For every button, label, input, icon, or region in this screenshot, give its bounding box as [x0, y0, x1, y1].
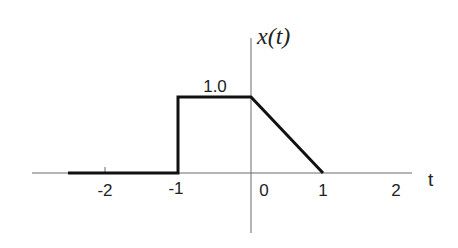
- tick-label-2: 2: [391, 181, 400, 200]
- x-axis-label: t: [428, 169, 434, 190]
- amplitude-label: 1.0: [203, 77, 227, 96]
- tick-label-0: 0: [259, 181, 268, 200]
- tick-label-1: 1: [318, 181, 327, 200]
- signal-waveform: [68, 97, 323, 173]
- tick-label-neg1: -1: [168, 179, 183, 198]
- tick-label-neg2: -2: [97, 181, 112, 200]
- signal-plot: -2 -1 0 1 2 1.0 x(t) t: [0, 0, 458, 248]
- y-axis-label: x(t): [256, 23, 290, 49]
